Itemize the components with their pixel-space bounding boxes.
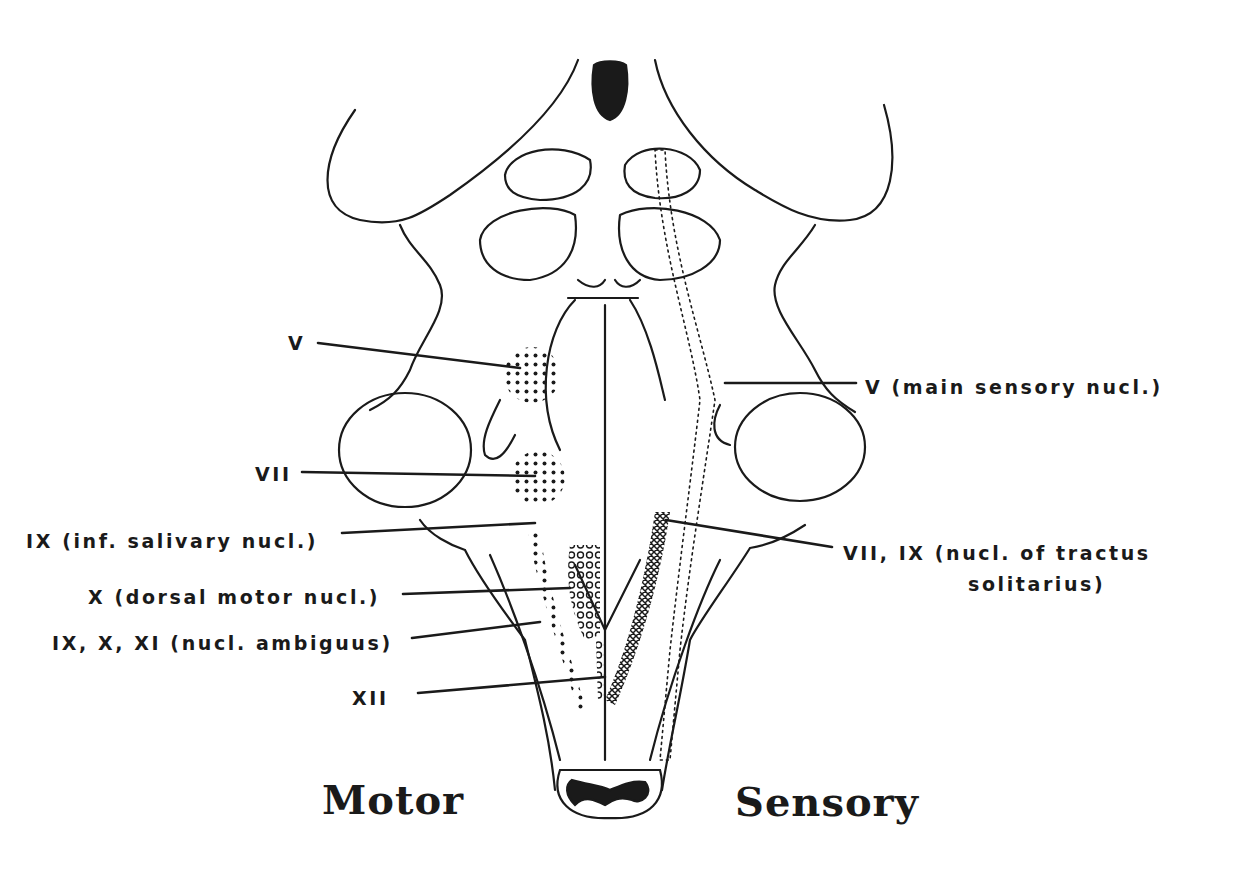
title-sensory: Sensory xyxy=(735,782,919,822)
right-peduncle-outline xyxy=(655,60,892,221)
label-x-dorsal-motor: X (dorsal motor nucl.) xyxy=(88,588,380,607)
fourth-ventricle-right xyxy=(630,300,665,400)
brainstem-diagram: V VII IX (inf. salivary nucl.) X (dorsal… xyxy=(0,0,1249,882)
label-tractus-solitarius-line2: solitarius) xyxy=(968,575,1105,594)
superior-colliculus-right xyxy=(624,149,700,199)
label-xii: XII xyxy=(352,689,389,708)
label-ix-inf-salivary: IX (inf. salivary nucl.) xyxy=(26,532,318,551)
right-inner-line xyxy=(650,560,720,760)
inferior-colliculus-left xyxy=(480,208,576,280)
label-tractus-solitarius-line1: VII, IX (nucl. of tractus xyxy=(843,544,1151,563)
label-nucl-ambiguus: IX, X, XI (nucl. ambiguus) xyxy=(52,634,393,653)
nucleus-vii xyxy=(511,451,565,505)
pineal-shape xyxy=(593,61,628,120)
label-vii: VII xyxy=(255,465,292,484)
inferior-colliculus-right xyxy=(619,208,720,280)
grey-matter xyxy=(567,780,648,805)
right-medulla-outline xyxy=(662,525,805,790)
left-cerebellar-peduncle xyxy=(339,393,471,507)
label-v-main-sensory: V (main sensory nucl.) xyxy=(865,378,1163,397)
title-motor: Motor xyxy=(322,780,464,820)
superior-colliculus-left xyxy=(505,149,591,200)
nucleus-xii xyxy=(596,640,606,700)
nucleus-dorsal-motor-x xyxy=(568,545,600,640)
label-v-motor: V xyxy=(288,334,305,353)
right-peduncle-stub xyxy=(714,405,730,445)
brainstem-illustration xyxy=(0,0,1249,882)
left-peduncle-outline xyxy=(328,60,579,222)
nucleus-v-motor xyxy=(504,347,560,403)
left-peduncle-stub xyxy=(484,400,515,459)
left-body-outline xyxy=(370,225,442,410)
frenulum xyxy=(578,280,640,287)
right-cerebellar-peduncle xyxy=(735,393,865,501)
